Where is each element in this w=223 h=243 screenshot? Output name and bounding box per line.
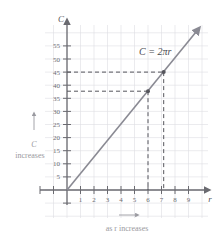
y-tick-label: 45 — [53, 69, 61, 77]
x-tick-label: 3 — [106, 196, 110, 204]
figure-container: 1 2 3 4 5 6 7 8 9 5 10 15 20 25 30 35 40… — [0, 0, 223, 243]
figure-background — [0, 0, 223, 243]
y-tick-label: 25 — [53, 121, 61, 129]
x-tick-labels: 1 2 3 4 5 6 7 8 9 — [79, 196, 191, 204]
y-tick-label: 15 — [53, 147, 61, 155]
left-annotation-line1: C — [31, 140, 37, 149]
x-tick-label: 1 — [79, 196, 83, 204]
y-axis-label: C — [58, 14, 65, 24]
bottom-annotation-label: as r increases — [106, 224, 149, 233]
y-tick-label: 30 — [53, 108, 61, 116]
point-b-marker — [162, 70, 166, 74]
point-a-marker — [146, 89, 150, 93]
x-tick-label: 8 — [173, 196, 177, 204]
left-annotation-line2: increases — [15, 151, 44, 160]
y-tick-label: 55 — [53, 42, 61, 50]
y-tick-label: 10 — [53, 160, 61, 168]
x-tick-label: 9 — [187, 196, 191, 204]
x-tick-label: 2 — [92, 196, 96, 204]
y-tick-label: 5 — [57, 173, 61, 181]
y-tick-label: 20 — [53, 134, 61, 142]
x-axis-label: r — [208, 194, 212, 204]
y-tick-label: 50 — [53, 56, 61, 64]
y-tick-labels: 5 10 15 20 25 30 35 40 45 50 55 — [53, 42, 61, 181]
x-tick-label: 4 — [119, 196, 123, 204]
x-tick-label: 5 — [133, 196, 137, 204]
x-tick-label: 6 — [146, 196, 150, 204]
equation-label: C = 2πr — [139, 46, 171, 57]
y-tick-label: 40 — [53, 82, 61, 90]
x-tick-label: 7 — [160, 196, 164, 204]
y-tick-label: 35 — [53, 95, 61, 103]
graph-svg: 1 2 3 4 5 6 7 8 9 5 10 15 20 25 30 35 40… — [0, 0, 223, 243]
